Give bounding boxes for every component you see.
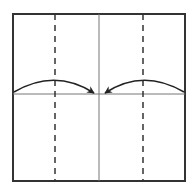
fold-diagram: [0, 0, 192, 193]
diagram-canvas: [0, 0, 192, 193]
